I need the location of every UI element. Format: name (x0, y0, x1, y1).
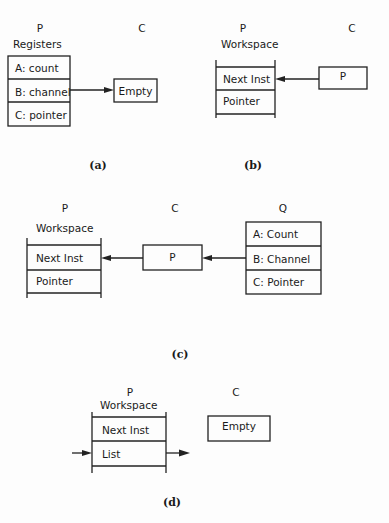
workspace-pointer: Pointer (223, 95, 261, 107)
arrow-q-channel-to-c (202, 255, 246, 261)
process-p-label: P (62, 202, 68, 214)
caption-a: (a) (89, 159, 107, 172)
register-b: B: channel (15, 86, 71, 98)
channel-c-value: P (340, 70, 346, 82)
process-c-label: C (138, 22, 145, 34)
workspace-title: Workspace (36, 222, 93, 234)
process-p-label: P (37, 22, 43, 34)
workspace-next-inst: Next Inst (36, 252, 83, 264)
workspace-box (92, 412, 166, 473)
q-register-a: A: Count (253, 228, 298, 240)
workspace-box (216, 60, 275, 118)
process-q-label: Q (279, 202, 287, 214)
arrow-channel-to-next-inst (101, 255, 143, 261)
panel-b: P C Workspace Next Inst Pointer P (b) (216, 22, 367, 172)
process-c-label: C (232, 386, 239, 398)
process-p-label: P (127, 386, 133, 398)
register-c: C: pointer (15, 109, 67, 121)
panel-d: P C Workspace Next Inst List Empty (d) (72, 386, 270, 509)
arrow-channel-to-empty (70, 87, 114, 93)
workspace-title: Workspace (221, 38, 278, 50)
workspace-pointer: Pointer (36, 275, 74, 287)
caption-c: (c) (171, 348, 188, 361)
panel-a: P C Registers A: count B: channel C: poi… (8, 22, 157, 172)
registers-title: Registers (13, 38, 62, 50)
q-register-c: C: Pointer (253, 276, 305, 288)
channel-communication-diagram: P C Registers A: count B: channel C: poi… (0, 0, 389, 523)
arrow-channel-to-next-inst (275, 76, 319, 82)
channel-c-value: Empty (222, 420, 256, 432)
arrow-list-outgoing (166, 450, 190, 457)
workspace-list: List (102, 448, 120, 460)
caption-d: (d) (163, 496, 181, 509)
panel-c: P C Q Workspace Next Inst Pointer P A: C… (27, 202, 321, 361)
channel-c-value: P (169, 251, 175, 263)
q-register-b: B: Channel (253, 253, 310, 265)
channel-c-value: Empty (119, 85, 153, 97)
arrow-incoming-to-list (72, 450, 92, 456)
workspace-box (27, 238, 101, 298)
process-c-label: C (171, 202, 178, 214)
workspace-next-inst: Next Inst (223, 73, 270, 85)
workspace-next-inst: Next Inst (102, 424, 149, 436)
caption-b: (b) (244, 159, 262, 172)
process-p-label: P (240, 22, 246, 34)
register-a: A: count (15, 62, 59, 74)
process-c-label: C (348, 22, 355, 34)
workspace-title: Workspace (100, 399, 157, 411)
